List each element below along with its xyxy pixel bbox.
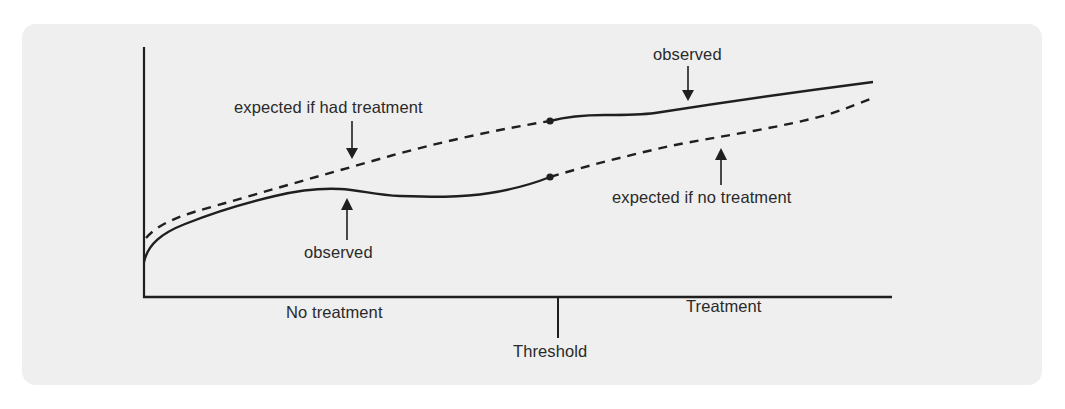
x-axis-label-no-treatment: No treatment <box>286 304 383 321</box>
x-axis-label-treatment: Treatment <box>686 298 761 315</box>
label-expected-if-no-treatment: expected if no treatment <box>612 189 791 206</box>
label-observed-right: observed <box>653 46 722 63</box>
label-expected-if-had-treatment: expected if had treatment <box>234 99 423 116</box>
threshold-dot-upper <box>546 117 553 124</box>
observed-curve-right <box>550 82 873 121</box>
label-observed-left: observed <box>304 244 373 261</box>
expected-if-no-treatment-curve <box>550 98 873 177</box>
threshold-dot-lower <box>546 173 553 180</box>
arrow-down-icon <box>346 121 358 159</box>
threshold-label: Threshold <box>513 343 587 360</box>
arrow-down-icon <box>682 66 694 101</box>
expected-if-had-treatment-curve <box>146 121 550 238</box>
arrow-up-icon <box>341 198 353 240</box>
arrow-up-icon <box>715 148 727 185</box>
